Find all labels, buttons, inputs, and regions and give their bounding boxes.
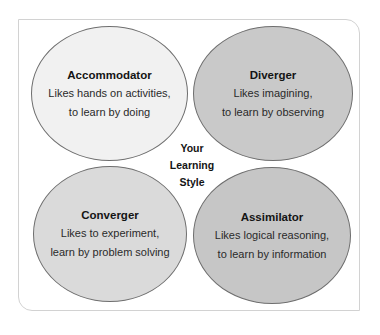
assimilator-title: Assimilator (241, 208, 304, 226)
accommodator-desc-line2: to learn by doing (69, 103, 150, 122)
diverger-desc-line2: to learn by observing (222, 103, 324, 122)
center-label-line3: Style (165, 174, 219, 191)
converger-desc-line1: Likes to experiment, (61, 224, 159, 243)
assimilator-desc-line2: to learn by information (218, 245, 327, 264)
center-label: Your Learning Style (165, 140, 219, 191)
diverger-title: Diverger (250, 66, 297, 84)
accommodator-desc-line1: Likes hands on activities, (48, 84, 170, 103)
center-label-line2: Learning (165, 157, 219, 174)
assimilator-desc-line1: Likes logical reasoning, (215, 226, 329, 245)
converger-desc-line2: learn by problem solving (50, 243, 169, 262)
converger-title: Converger (81, 206, 139, 224)
center-label-line1: Your (165, 140, 219, 157)
accommodator-title: Accommodator (67, 66, 151, 84)
diverger-desc-line1: Likes imagining, (234, 84, 313, 103)
converger-ellipse: Converger Likes to experiment, learn by … (33, 166, 187, 302)
